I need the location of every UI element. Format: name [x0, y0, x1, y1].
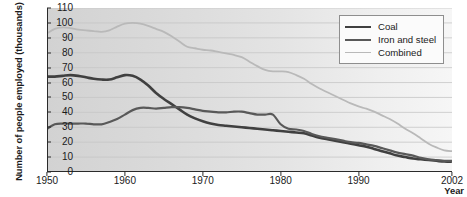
x-tick-label: 1970: [192, 176, 214, 186]
series-line-coal: [47, 75, 452, 162]
x-tick-mark: [124, 172, 125, 176]
x-tick-mark: [46, 172, 47, 176]
legend: Coal Iron and steel Combined: [339, 15, 444, 64]
y-tick-mark: [47, 127, 51, 128]
legend-label-combined: Combined: [378, 47, 422, 58]
x-tick-mark: [202, 172, 203, 176]
legend-item-combined: Combined: [345, 46, 436, 59]
x-axis-title: Year: [444, 185, 464, 196]
y-tick-mark: [47, 157, 51, 158]
x-tick-label: 1950: [36, 176, 58, 186]
legend-label-coal: Coal: [378, 21, 398, 32]
legend-label-iron-and-steel: Iron and steel: [378, 34, 436, 45]
y-tick-mark: [47, 52, 51, 53]
legend-swatch-combined-icon: [345, 52, 371, 53]
y-tick-mark: [47, 97, 51, 98]
x-tick-mark: [358, 172, 359, 176]
x-tick-label: 2002: [441, 176, 463, 186]
legend-item-coal: Coal: [345, 20, 436, 33]
y-tick-mark: [47, 142, 51, 143]
legend-item-iron-and-steel: Iron and steel: [345, 33, 436, 46]
y-tick-mark: [47, 172, 51, 173]
y-axis-title: Number of people employed (thousands): [13, 2, 24, 182]
y-tick-mark: [47, 37, 51, 38]
x-axis-line: [47, 171, 452, 172]
legend-swatch-iron-and-steel-icon: [345, 39, 371, 41]
x-tick-label: 1990: [347, 176, 369, 186]
y-tick-mark: [47, 67, 51, 68]
y-tick-mark: [47, 8, 51, 9]
y-tick-mark: [47, 82, 51, 83]
employment-line-chart: Number of people employed (thousands) Ye…: [0, 0, 467, 197]
y-tick-mark: [47, 112, 51, 113]
x-tick-mark: [280, 172, 281, 176]
x-tick-label: 1980: [270, 176, 292, 186]
x-tick-label: 1960: [114, 176, 136, 186]
y-tick-mark: [47, 22, 51, 23]
x-tick-mark: [451, 172, 452, 176]
legend-swatch-coal-icon: [345, 26, 371, 28]
